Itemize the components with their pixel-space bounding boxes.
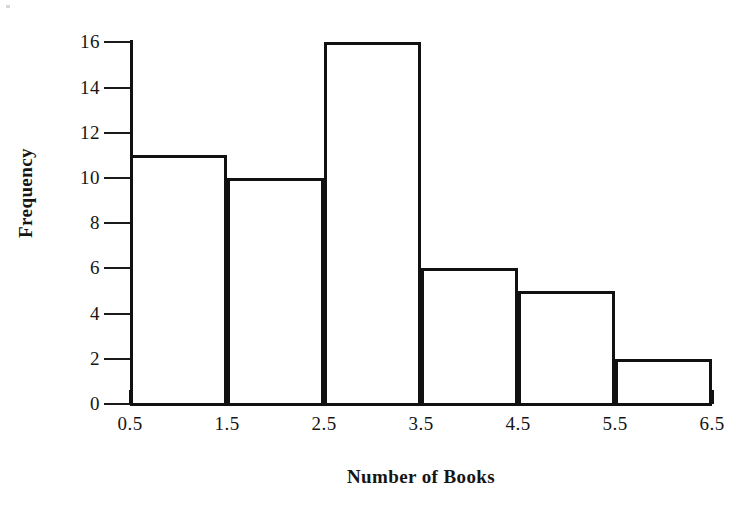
- histogram-bar: [324, 42, 421, 406]
- x-axis-tick-label: 3.5: [391, 414, 451, 433]
- y-axis-tick-rule: [104, 41, 133, 43]
- x-axis-tick-mark: [129, 390, 132, 404]
- y-axis-title: Frequency: [15, 123, 37, 263]
- y-axis-tick-rule: [104, 177, 133, 179]
- histogram-bar: [518, 291, 615, 406]
- histogram-bar: [130, 155, 227, 406]
- x-axis-tick-mark: [420, 390, 423, 404]
- histogram-bar: [227, 178, 324, 406]
- x-axis-tick-mark: [226, 390, 229, 404]
- x-axis-tick-mark: [614, 390, 617, 404]
- y-axis-tick-label: 6: [58, 258, 100, 277]
- x-axis-tick-mark: [711, 390, 714, 404]
- y-axis-tick-rule: [104, 132, 133, 134]
- x-axis-tick-mark: [517, 390, 520, 404]
- y-axis-tick-label: 4: [58, 304, 100, 323]
- y-axis-tick-label: 10: [58, 168, 100, 187]
- y-axis-tick-rule: [104, 358, 133, 360]
- y-axis-tick-label: 16: [58, 32, 100, 51]
- y-axis-tick-rule: [104, 222, 133, 224]
- y-axis-tick-label: 8: [58, 213, 100, 232]
- x-axis-title: Number of Books: [130, 466, 712, 488]
- x-axis-tick-label: 0.5: [100, 414, 160, 433]
- y-axis-tick-label: 12: [58, 123, 100, 142]
- y-axis-tick-rule: [104, 313, 133, 315]
- x-axis-tick-label: 4.5: [488, 414, 548, 433]
- x-axis-tick-mark: [323, 390, 326, 404]
- histogram-bar: [421, 268, 518, 406]
- histogram-bar: [615, 359, 712, 406]
- x-axis-tick-label: 1.5: [197, 414, 257, 433]
- x-axis-tick-label: 2.5: [294, 414, 354, 433]
- y-axis-tick-rule: [104, 267, 133, 269]
- scan-artifact: [6, 5, 10, 8]
- y-axis-tick-label: 2: [58, 349, 100, 368]
- x-axis-tick-label: 6.5: [682, 414, 742, 433]
- y-axis-tick-rule: [104, 87, 133, 89]
- y-axis-tick-label: 0: [58, 394, 100, 413]
- x-axis-tick-label: 5.5: [585, 414, 645, 433]
- histogram-chart: Frequency 0246810121416 0.51.52.53.54.55…: [0, 0, 745, 508]
- y-axis-tick-label: 14: [58, 78, 100, 97]
- y-axis-line: [130, 40, 133, 406]
